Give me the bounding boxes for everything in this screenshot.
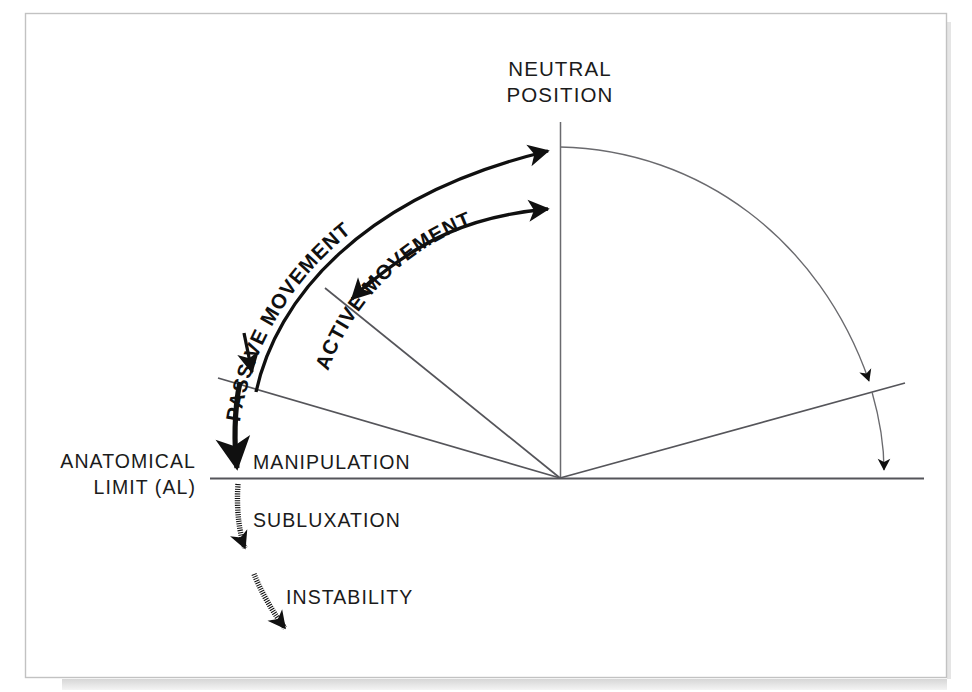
anatomical-limit-label-line2: LIMIT (AL) (94, 476, 196, 498)
neutral-position-label-line1: NEUTRAL (508, 57, 612, 80)
anatomical-limit-label-line1: ANATOMICAL (60, 450, 196, 472)
figure-shadow (62, 679, 947, 690)
neutral-position-label-line2: POSITION (507, 83, 614, 106)
instability-label: INSTABILITY (286, 586, 413, 608)
range-of-motion-diagram: NEUTRAL POSITION ANATOMICAL LIMIT (AL) M… (0, 0, 972, 692)
subluxation-label: SUBLUXATION (253, 509, 401, 531)
figure-canvas: NEUTRAL POSITION ANATOMICAL LIMIT (AL) M… (0, 0, 972, 692)
figure-shadow-right (947, 22, 951, 679)
figure-border (26, 14, 947, 678)
manipulation-label: MANIPULATION (253, 451, 411, 473)
